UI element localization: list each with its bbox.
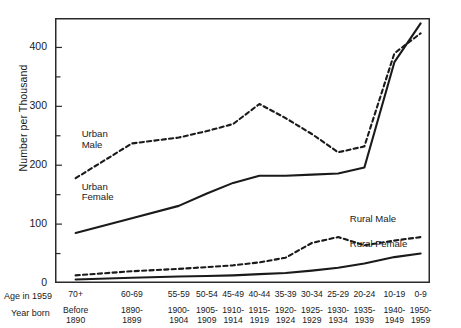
row-label-age: Age in 1959	[4, 291, 52, 301]
y-tick-0: 0	[13, 276, 47, 288]
chart-figure: Number per Thousand 0100200300400 70+Bef…	[0, 0, 461, 328]
x-age-label-70+: 70+	[50, 290, 102, 300]
series-line-urban-female	[76, 23, 421, 233]
series-label-urban-female: UrbanFemale	[82, 182, 114, 203]
y-tick-200: 200	[13, 158, 47, 170]
series-label-rural-female: Rural Female	[350, 239, 408, 249]
faded-header-artifact	[88, 0, 91, 7]
row-label-yearborn: Year born	[11, 308, 50, 318]
series-label-urban-male: UrbanMale	[82, 129, 108, 150]
series-line-rural-female	[76, 254, 421, 280]
series-line-urban-male	[76, 33, 421, 178]
y-tick-400: 400	[13, 40, 47, 52]
x-age-label-60-69: 60-69	[106, 290, 158, 300]
y-tick-100: 100	[13, 217, 47, 229]
x-yearborn-label-0-9: 1950-1959	[395, 306, 447, 325]
y-tick-300: 300	[13, 99, 47, 111]
x-age-label-0-9: 0-9	[395, 290, 447, 300]
series-label-rural-male: Rural Male	[350, 214, 396, 224]
x-yearborn-label-60-69: 1890-1899	[106, 306, 158, 325]
x-yearborn-label-70+: Before1890	[50, 306, 102, 325]
